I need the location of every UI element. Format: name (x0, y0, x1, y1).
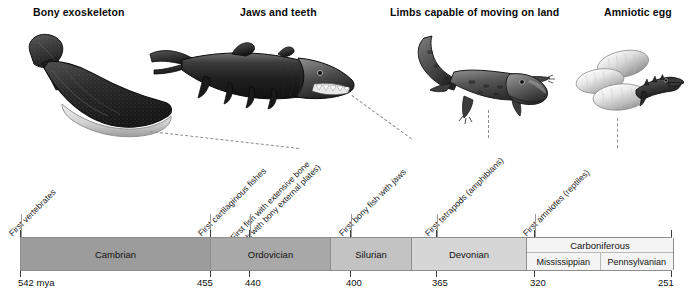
axis-value-455: 455 (197, 277, 213, 288)
heading-bony-exoskeleton: Bony exoskeleton (33, 6, 124, 18)
tick-top-440 (249, 230, 250, 237)
connector-egg-to-label (617, 118, 618, 148)
period-carboniferous[interactable]: Carboniferous Mississippian Pennsylvania… (527, 238, 674, 270)
event-label-line1: First fish with extensive bone (229, 156, 316, 243)
event-label-line1: First tetrapods (amphibians) (423, 155, 506, 238)
leader-first-vertebrates (21, 214, 22, 237)
tick-top-251 (671, 230, 672, 237)
heading-amniotic-egg: Amniotic egg (604, 6, 672, 18)
leader-first-bony-fish-with-jaws (351, 214, 352, 237)
period-silurian[interactable]: Silurian (331, 238, 412, 270)
heading-jaws-and-teeth: Jaws and teeth (240, 6, 317, 18)
leader-first-fish-extensive-bone (250, 214, 251, 237)
period-label-devonian: Devonian (449, 249, 489, 260)
subperiod-pennsylvanian[interactable]: Pennsylvanian (601, 253, 674, 270)
event-label-first-tetrapods: First tetrapods (amphibians) (423, 155, 506, 238)
period-label-carboniferous: Carboniferous (570, 238, 630, 251)
event-label-first-fish-extensive-bone: First fish with extensive bone (fish wit… (229, 156, 323, 250)
event-label-line1: First amniotes (reptiles) (521, 167, 592, 238)
tick-top-542 (20, 230, 21, 237)
tetrapod-salamander-illustration (406, 30, 556, 130)
tick-top-400 (350, 230, 351, 237)
subperiod-mississippian[interactable]: Mississippian (527, 253, 601, 270)
axis-value-440: 440 (245, 277, 261, 288)
period-devonian[interactable]: Devonian (412, 238, 527, 270)
placoderm-shark-illustration (148, 40, 368, 130)
axis-value-365: 365 (432, 277, 448, 288)
leader-first-amniotes (535, 214, 536, 237)
period-label-ordovician: Ordovician (248, 249, 293, 260)
period-label-cambrian: Cambrian (95, 249, 136, 260)
event-label-first-vertebrates: First vertebrates (7, 187, 58, 238)
event-label-first-amniotes: First amniotes (reptiles) (521, 167, 592, 238)
tick-top-365 (436, 230, 437, 237)
period-label-silurian: Silurian (355, 249, 387, 260)
heading-limbs-on-land: Limbs capable of moving on land (390, 6, 559, 18)
period-cambrian[interactable]: Cambrian (21, 238, 211, 270)
axis-value-400: 400 (346, 277, 362, 288)
evolutionary-timeline-figure: Bony exoskeleton Jaws and teeth Limbs ca… (0, 0, 692, 297)
event-label-first-bony-fish-with-jaws: First bony fish with jaws (337, 167, 408, 238)
event-label-line1: First bony fish with jaws (337, 167, 408, 238)
axis-value-251: 251 (658, 277, 674, 288)
tick-top-320 (534, 230, 535, 237)
amniote-eggs-illustration (576, 40, 688, 122)
connector-tetrapod-to-label (488, 110, 489, 138)
event-label-line1: First vertebrates (7, 187, 58, 238)
leader-first-tetrapods (437, 214, 438, 237)
period-ordovician[interactable]: Ordovician (211, 238, 331, 270)
carboniferous-subperiods: Mississippian Pennsylvanian (527, 252, 673, 270)
tick-top-455 (210, 230, 211, 237)
axis-value-320: 320 (530, 277, 546, 288)
geologic-timeline-bar: Cambrian Ordovician Silurian Devonian Ca… (20, 237, 672, 271)
axis-value-542: 542 mya (18, 277, 54, 288)
